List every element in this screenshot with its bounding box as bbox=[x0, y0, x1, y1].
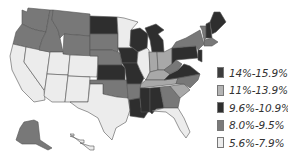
legend-label: 14%-15.9% bbox=[229, 67, 288, 79]
state-SD bbox=[90, 34, 118, 52]
legend-item: 9.6%-10.9% bbox=[217, 99, 288, 117]
state-NM bbox=[65, 76, 90, 102]
state-KS bbox=[97, 65, 125, 80]
state-MA bbox=[204, 38, 218, 46]
state-IN bbox=[149, 52, 158, 72]
legend-label: 8.0%-9.5% bbox=[229, 119, 284, 131]
legend-item: 5.6%-7.9% bbox=[217, 134, 288, 152]
legend-swatch bbox=[217, 67, 224, 78]
state-AK bbox=[16, 120, 52, 150]
state-ME bbox=[210, 12, 226, 34]
state-HI bbox=[70, 134, 94, 150]
legend-swatch bbox=[217, 102, 224, 113]
legend-swatch bbox=[217, 137, 224, 148]
state-ND bbox=[90, 16, 118, 34]
legend-swatch bbox=[217, 85, 224, 96]
legend: 14%-15.9% 11%-13.9% 9.6%-10.9% 8.0%-9.5%… bbox=[217, 64, 288, 152]
legend-item: 11%-13.9% bbox=[217, 82, 288, 100]
state-AR bbox=[127, 84, 141, 100]
legend-label: 11%-13.9% bbox=[229, 84, 288, 96]
state-MS bbox=[140, 88, 150, 112]
legend-swatch bbox=[217, 120, 224, 131]
state-FL bbox=[152, 108, 190, 138]
state-NJ bbox=[198, 50, 202, 62]
legend-label: 9.6%-10.9% bbox=[229, 102, 288, 114]
state-AZ bbox=[44, 74, 68, 102]
state-WY bbox=[63, 34, 90, 56]
state-UT bbox=[47, 52, 70, 75]
legend-label: 5.6%-7.9% bbox=[229, 137, 284, 149]
state-CO bbox=[68, 55, 98, 77]
legend-item: 14%-15.9% bbox=[217, 64, 288, 82]
legend-item: 8.0%-9.5% bbox=[217, 117, 288, 135]
